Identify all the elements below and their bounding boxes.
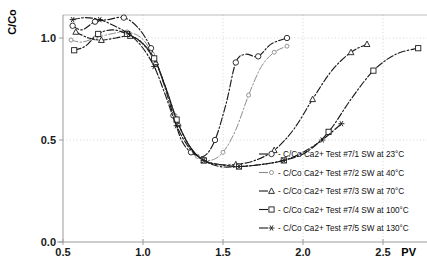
marker-small-circle <box>69 38 73 42</box>
marker-triangle <box>364 41 370 47</box>
data-series <box>69 30 289 161</box>
marker-square <box>416 46 421 51</box>
legend-label: - C/Co Ca2+ Test #7/1 SW at 23°C <box>278 150 404 159</box>
line-chart: 0.51.01.52.02.50.00.51.0 C/CoPV - C/Co C… <box>0 0 427 267</box>
series-line <box>71 32 287 161</box>
marker-small-circle <box>247 93 251 97</box>
marker-circle <box>212 137 217 142</box>
series-line <box>76 32 367 165</box>
data-series <box>72 30 421 169</box>
marker-circle <box>284 35 289 40</box>
legend-label: - C/Co Ca2+ Test #7/2 SW at 40°C <box>278 169 404 178</box>
marker-circle <box>121 15 126 20</box>
series-line <box>74 30 418 167</box>
axis-titles: C/CoPV <box>6 9 417 258</box>
x-tick-label: 2.0 <box>295 246 310 258</box>
x-axis-title: PV <box>401 246 416 258</box>
marker-square <box>152 56 157 61</box>
legend-item[interactable]: - C/Co Ca2+ Test #7/5 SW at 130°C <box>259 224 409 233</box>
x-tick-label: 1.0 <box>135 246 150 258</box>
series-line <box>73 18 342 167</box>
legend-marker <box>269 207 274 212</box>
legend-label: - C/Co Ca2+ Test #7/3 SW at 70°C <box>278 187 404 196</box>
x-tick-label: 0.5 <box>55 246 70 258</box>
legend-item[interactable]: - C/Co Ca2+ Test #7/4 SW at 100°C <box>259 206 409 215</box>
marker-triangle <box>348 49 354 55</box>
legend-item[interactable]: - C/Co Ca2+ Test #7/2 SW at 40°C <box>259 169 404 178</box>
marker-circle <box>70 23 75 28</box>
y-tick-label: 0.5 <box>41 134 56 146</box>
data-series <box>70 17 345 169</box>
legend-label: - C/Co Ca2+ Test #7/4 SW at 100°C <box>278 206 409 215</box>
marker-asterisk <box>70 17 76 22</box>
legend-label: - C/Co Ca2+ Test #7/5 SW at 130°C <box>278 224 409 233</box>
marker-circle <box>256 54 261 59</box>
marker-small-circle <box>285 44 289 48</box>
marker-triangle <box>73 29 79 34</box>
marker-small-circle <box>272 50 276 54</box>
marker-square <box>371 68 376 73</box>
marker-circle <box>233 60 238 65</box>
legend-marker <box>270 171 274 175</box>
y-axis-title: C/Co <box>6 9 18 35</box>
legend-item[interactable]: - C/Co Ca2+ Test #7/1 SW at 23°C <box>259 150 404 159</box>
marker-small-circle <box>221 150 225 154</box>
y-tick-label: 1.0 <box>41 32 56 44</box>
legend-marker <box>269 225 275 230</box>
marker-square <box>96 31 101 36</box>
marker-triangle <box>310 96 316 102</box>
legend-marker <box>269 151 274 156</box>
data-series <box>73 29 370 167</box>
legend-marker <box>269 188 275 194</box>
marker-square <box>72 48 77 53</box>
chart-container: 0.51.01.52.02.50.00.51.0 C/CoPV - C/Co C… <box>0 0 427 267</box>
legend-item[interactable]: - C/Co Ca2+ Test #7/3 SW at 70°C <box>259 187 404 196</box>
y-tick-label: 0.0 <box>41 236 56 248</box>
x-tick-label: 1.5 <box>215 246 230 258</box>
x-tick-label: 2.5 <box>375 246 390 258</box>
